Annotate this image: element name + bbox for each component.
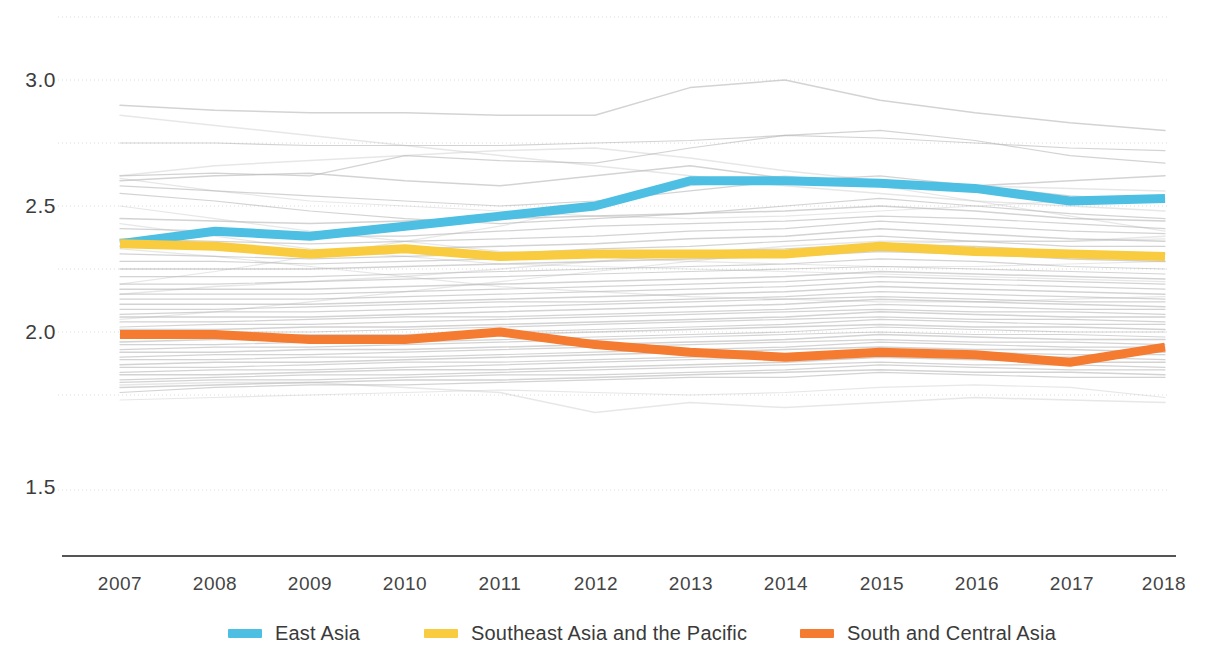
legend-label-east-asia: East Asia (275, 622, 360, 645)
legend-swatch-southeast-asia-and-the-pacific (424, 629, 458, 638)
x-tick-label-2007: 2007 (75, 573, 165, 595)
x-tick-label-2015: 2015 (837, 573, 927, 595)
legend-label-south-and-central-asia: South and Central Asia (847, 622, 1056, 645)
x-tick-label-2011: 2011 (455, 573, 545, 595)
legend-swatch-south-and-central-asia (800, 629, 834, 638)
x-tick-label-2010: 2010 (360, 573, 450, 595)
x-tick-label-2014: 2014 (741, 573, 831, 595)
legend-item-southeast-asia-and-the-pacific[interactable]: Southeast Asia and the Pacific (424, 620, 747, 646)
x-tick-label-2008: 2008 (170, 573, 260, 595)
x-tick-label-2016: 2016 (932, 573, 1022, 595)
legend-item-east-asia[interactable]: East Asia (228, 620, 360, 646)
x-tick-label-2009: 2009 (265, 573, 355, 595)
legend-swatch-east-asia (228, 629, 262, 638)
chart-legend: East Asia Southeast Asia and the Pacific… (0, 620, 1215, 649)
x-tick-label-2013: 2013 (646, 573, 736, 595)
highlight-series-layer (0, 0, 1215, 649)
x-tick-label-2012: 2012 (551, 573, 641, 595)
legend-item-south-and-central-asia[interactable]: South and Central Asia (800, 620, 1056, 646)
plot-area (0, 0, 1215, 649)
x-tick-label-2017: 2017 (1027, 573, 1117, 595)
legend-label-southeast-asia-and-the-pacific: Southeast Asia and the Pacific (471, 622, 747, 645)
chart-container: 3.0 2.5 2.0 1.5 2007 2008 2009 2010 2011… (0, 0, 1215, 649)
x-tick-label-2018: 2018 (1119, 573, 1209, 595)
